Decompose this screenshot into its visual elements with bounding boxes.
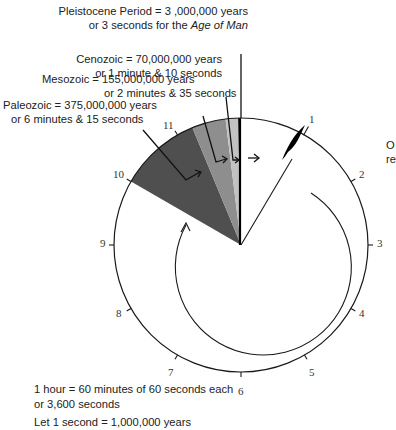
mesozoic-annotation: Mesozoic = 155,000,000 years or 2 minute…: [42, 72, 236, 100]
footnote-line1: 1 hour = 60 minutes of 60 seconds each: [34, 382, 233, 397]
paleozoic-annotation: Paleozoic = 375,000,000 years or 6 minut…: [3, 98, 157, 126]
clipped-right-text: O re: [386, 138, 396, 166]
clock-number-2: 2: [359, 168, 365, 180]
age-of-man-text: Age of Man: [191, 19, 248, 31]
pleistocene-line1: Pleistocene Period = 3 ,000,000 years: [59, 4, 248, 18]
pleistocene-line2: or 3 seconds for the Age of Man: [59, 18, 248, 32]
cenozoic-line1: Cenozoic = 70,000,000 years: [76, 52, 222, 66]
clock-number-1: 1: [309, 113, 315, 125]
clock-number-7: 7: [168, 366, 174, 378]
clock-number-3: 3: [377, 237, 383, 249]
clock-number-11: 11: [163, 119, 174, 131]
clock-number-9: 9: [100, 237, 106, 249]
hour-hand-tip: [282, 125, 305, 160]
clock-number-5: 5: [309, 366, 315, 378]
arc-arrowhead-icon: [181, 223, 190, 232]
clock-number-8: 8: [116, 307, 122, 319]
pleistocene-annotation: Pleistocene Period = 3 ,000,000 years or…: [59, 4, 248, 32]
footnote: 1 hour = 60 minutes of 60 seconds each o…: [34, 382, 233, 430]
paleozoic-line2: or 6 minutes & 15 seconds: [3, 112, 157, 126]
footnote-line3: Let 1 second = 1,000,000 years: [34, 415, 233, 430]
mesozoic-line1: Mesozoic = 155,000,000 years: [42, 72, 236, 86]
paleozoic-line1: Paleozoic = 375,000,000 years: [3, 98, 157, 112]
clock-number-10: 10: [113, 168, 124, 180]
clock-number-6: 6: [238, 385, 244, 397]
clock-number-4: 4: [359, 307, 365, 319]
hour-hand-line: [241, 159, 292, 245]
footnote-line2: or 3,600 seconds: [34, 397, 233, 412]
